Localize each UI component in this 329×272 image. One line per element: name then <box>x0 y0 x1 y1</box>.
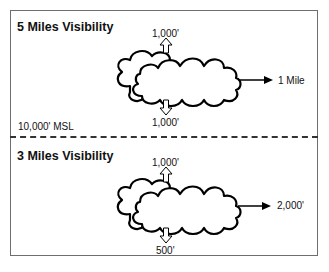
up-arrow-icon <box>160 38 172 53</box>
right-arrow-icon <box>262 202 271 210</box>
right-arrow-icon <box>264 76 273 84</box>
cloud-icon <box>118 51 241 106</box>
diagram-graphics <box>0 0 329 272</box>
cloud-icon <box>118 179 241 234</box>
